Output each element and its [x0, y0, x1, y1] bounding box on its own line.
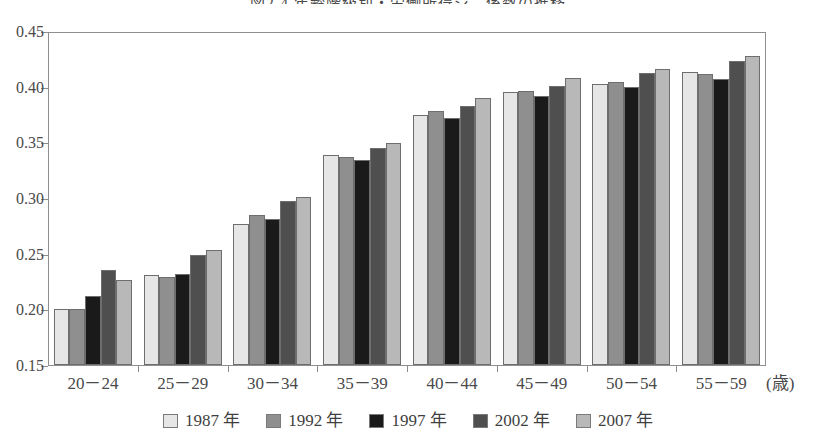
- bar: [444, 118, 460, 365]
- x-axis-tick-label: 40－44: [407, 374, 497, 394]
- bar: [413, 115, 429, 366]
- y-axis-tick-label: 0.15: [0, 358, 44, 374]
- bar: [233, 224, 249, 365]
- bars-layer: [48, 32, 764, 365]
- bar: [159, 277, 175, 365]
- bar: [85, 296, 101, 365]
- bar: [206, 250, 222, 365]
- legend-item: 1992 年: [266, 412, 343, 430]
- bar: [370, 148, 386, 365]
- x-axis-tick-mark: [138, 366, 139, 372]
- y-axis-tick-label: 0.30: [0, 191, 44, 207]
- legend-label: 1987 年: [185, 412, 240, 430]
- bar: [655, 69, 671, 365]
- legend-label: 1992 年: [288, 412, 343, 430]
- bar: [549, 86, 565, 365]
- bar: [144, 275, 160, 365]
- bar: [249, 215, 265, 365]
- legend-swatch: [369, 414, 384, 428]
- bar: [592, 84, 608, 365]
- y-axis-tick-label: 0.20: [0, 302, 44, 318]
- bar: [175, 274, 191, 365]
- y-axis-tick-label: 0.45: [0, 24, 44, 40]
- bar: [428, 111, 444, 365]
- bar: [460, 106, 476, 365]
- legend-label: 1997 年: [391, 412, 446, 430]
- bar: [296, 197, 312, 365]
- chart-figure: 図2-4 年齢階級別・労働所得ジニ係数の推移 0.450.400.350.300…: [0, 0, 816, 442]
- bar: [608, 82, 624, 365]
- x-axis-tick-label: 50－54: [587, 374, 677, 394]
- legend-swatch: [473, 414, 488, 428]
- y-axis-tick-label: 0.40: [0, 80, 44, 96]
- x-axis-tick-label: 55－59: [676, 374, 766, 394]
- x-axis-tick-mark: [317, 366, 318, 372]
- legend-item: 2007 年: [576, 412, 653, 430]
- bar: [729, 61, 745, 365]
- bar: [116, 280, 132, 365]
- legend-swatch: [576, 414, 591, 428]
- legend-swatch: [163, 414, 178, 428]
- bar: [639, 73, 655, 365]
- chart-legend: 1987 年1992 年1997 年2002 年2007 年: [0, 412, 816, 430]
- bar: [280, 201, 296, 365]
- bar: [354, 160, 370, 365]
- chart-title: 図2-4 年齢階級別・労働所得ジニ係数の推移: [0, 0, 816, 4]
- x-axis-tick-mark: [587, 366, 588, 372]
- bar: [682, 72, 698, 365]
- bar: [518, 91, 534, 365]
- legend-item: 2002 年: [473, 412, 550, 430]
- bar: [69, 309, 85, 365]
- x-axis-tick-label: 20－24: [48, 374, 138, 394]
- x-axis-tick-label: 35－39: [317, 374, 407, 394]
- bar: [54, 309, 70, 365]
- bar: [713, 79, 729, 365]
- legend-item: 1997 年: [369, 412, 446, 430]
- bar: [698, 74, 714, 365]
- bar: [565, 78, 581, 365]
- bar: [323, 155, 339, 365]
- x-axis-unit-label: (歳): [766, 374, 794, 394]
- legend-swatch: [266, 414, 281, 428]
- bar: [386, 143, 402, 365]
- bar: [339, 157, 355, 365]
- bar: [534, 96, 550, 365]
- x-axis-tick-mark: [407, 366, 408, 372]
- x-axis-tick-label: 30－34: [228, 374, 318, 394]
- bar: [503, 92, 519, 365]
- y-axis-tick-label: 0.25: [0, 247, 44, 263]
- x-axis-tick-mark: [228, 366, 229, 372]
- bar: [745, 56, 761, 366]
- bar: [101, 270, 117, 365]
- x-axis-tick-label: 45－49: [497, 374, 587, 394]
- x-axis-tick-mark: [497, 366, 498, 372]
- y-axis-tick-label: 0.35: [0, 135, 44, 151]
- legend-label: 2002 年: [495, 412, 550, 430]
- bar: [265, 219, 281, 365]
- legend-label: 2007 年: [598, 412, 653, 430]
- bar: [475, 98, 491, 365]
- bar: [624, 87, 640, 365]
- x-axis-tick-mark: [676, 366, 677, 372]
- bar: [190, 255, 206, 365]
- legend-item: 1987 年: [163, 412, 240, 430]
- x-axis-tick-label: 25－29: [138, 374, 228, 394]
